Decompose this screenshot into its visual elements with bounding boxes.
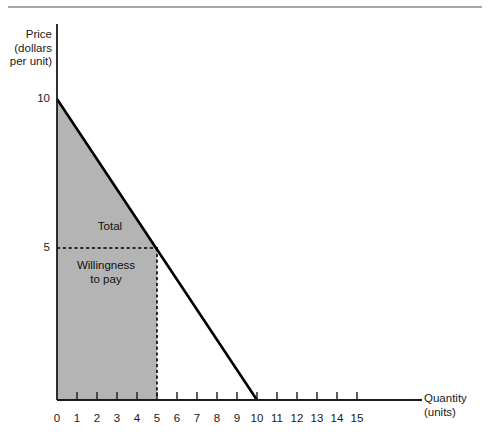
y-axis-title: Price(dollarsper unit) [0,28,52,69]
x-tick-label-3: 3 [107,412,127,424]
x-tick-label-12: 12 [287,412,307,424]
y-axis-unit-line2: per unit) [10,55,52,67]
chart-plot-area [0,0,490,434]
x-axis-title-name: Quantity [424,392,467,404]
x-axis-unit: (units) [424,406,456,418]
x-tick-label-7: 7 [187,412,207,424]
x-tick-label-2: 2 [87,412,107,424]
x-tick-label-5: 5 [147,412,167,424]
y-tick-label-10: 10 [18,92,50,106]
y-tick-label-5: 5 [18,241,50,255]
x-tick-label-0: 0 [47,412,67,424]
x-tick-label-9: 9 [227,412,247,424]
annotation-total: Total [62,219,158,233]
annotation-willingness-line2: to pay [90,273,121,285]
x-tick-label-13: 13 [307,412,327,424]
x-tick-label-15: 15 [347,412,367,424]
shaded-willingness-region [57,99,157,400]
x-axis-title: Quantity(units) [424,392,490,419]
y-axis-unit-line1: (dollars [14,42,52,54]
x-tick-label-8: 8 [207,412,227,424]
x-tick-label-1: 1 [67,412,87,424]
annotation-willingness-line1: Willingness [77,259,135,271]
x-tick-label-10: 10 [247,412,267,424]
annotation-willingness-to-pay: Willingnessto pay [58,258,154,286]
x-tick-label-4: 4 [127,412,147,424]
y-axis-title-name: Price [26,28,52,40]
x-tick-label-14: 14 [327,412,347,424]
x-tick-label-6: 6 [167,412,187,424]
willingness-to-pay-chart: Price(dollarsper unit) Quantity(units) 1… [0,0,490,434]
x-tick-label-11: 11 [267,412,287,424]
